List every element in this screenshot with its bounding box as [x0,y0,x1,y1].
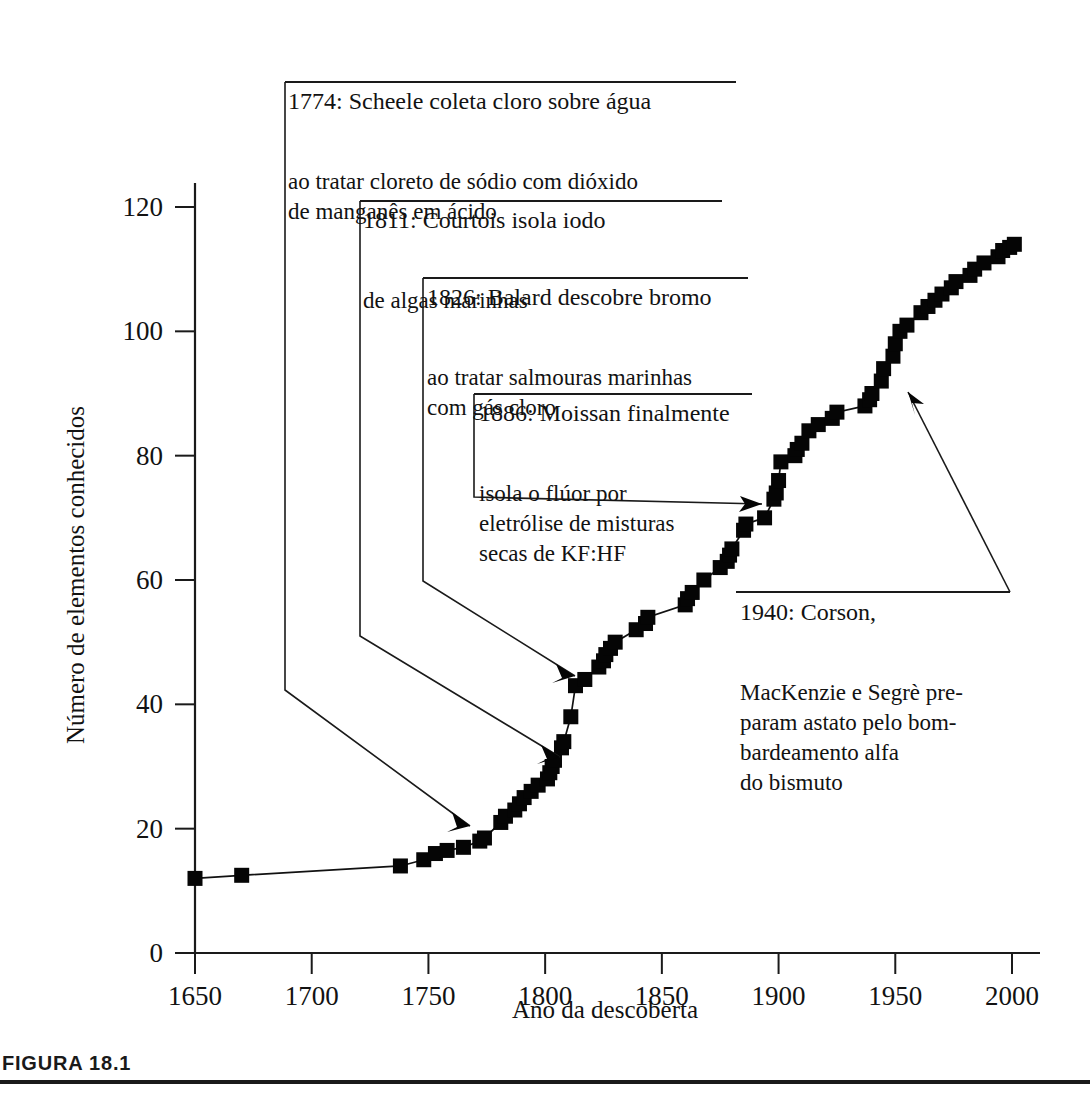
data-marker [773,454,788,469]
y-tick-label: 120 [123,192,164,222]
x-tick-label: 1750 [401,981,455,1011]
annotation-head-corson-1940: 1940: Corson, [740,597,963,628]
figure-caption: FIGURA 18.1 [0,1052,1090,1084]
annotation-head-balard-1826: 1826: Balard descobre bromo [427,282,712,313]
data-marker [234,868,249,883]
y-tick-label: 80 [136,441,163,471]
y-tick-label-group: 020406080100120 [123,192,164,968]
x-tick-label: 1900 [752,981,806,1011]
figure-caption-rule [0,1080,1090,1084]
y-tick-label: 40 [136,689,163,719]
annotation-arrowhead-scheele-1774 [447,812,470,832]
data-marker [811,417,826,432]
data-marker [563,709,578,724]
data-marker [456,840,471,855]
data-marker [899,318,914,333]
data-marker [757,510,772,525]
data-marker [577,672,592,687]
data-marker [640,610,655,625]
figure-18-1: 020406080100120 165017001750180018501900… [0,0,1090,1108]
y-tick-label: 100 [123,316,164,346]
x-axis-title: Ano da descoberta [512,996,698,1023]
annotation-moissan-1886: 1886: Moissan finalmente isola o flúor p… [479,356,730,611]
data-marker [1007,237,1022,252]
x-tick-label: 2000 [985,981,1039,1011]
data-marker [477,830,492,845]
data-marker [829,405,844,420]
annotation-head-scheele-1774: 1774: Scheele coleta cloro sobre água [288,86,651,117]
data-marker [188,871,203,886]
x-tick-group [195,953,1012,974]
y-tick-label: 60 [136,565,163,595]
x-tick-label: 1950 [868,981,922,1011]
annotation-head-courtois-1811: 1811: Courtois isola iodo [363,205,605,236]
x-tick-label: 1700 [285,981,339,1011]
data-marker [556,734,571,749]
data-marker [440,843,455,858]
y-tick-label: 0 [150,938,164,968]
data-marker [976,255,991,270]
annotation-body-moissan-1886: isola o flúor por eletrólise de misturas… [479,479,730,569]
y-tick-label: 20 [136,814,163,844]
data-marker [948,274,963,289]
annotation-body-corson-1940: MacKenzie e Segrè pre- param astato pelo… [740,678,963,798]
annotation-corson-1940: 1940: Corson, MacKenzie e Segrè pre- par… [740,555,963,840]
figure-caption-label: FIGURA 18.1 [0,1052,1090,1075]
data-marker [608,635,623,650]
y-tick-group [175,207,195,953]
annotation-head-moissan-1886: 1886: Moissan finalmente [479,398,730,429]
annotation-arrowhead-corson-1940 [908,392,924,415]
y-axis-title: Número de elementos conhecidos [62,406,89,744]
x-tick-label: 1650 [168,981,222,1011]
data-marker [738,517,753,532]
data-marker [771,473,786,488]
data-marker [393,858,408,873]
